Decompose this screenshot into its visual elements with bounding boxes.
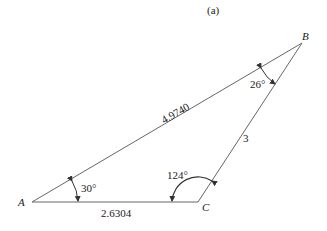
angle-arc-a bbox=[72, 181, 78, 201]
side-label-bc: 3 bbox=[243, 132, 249, 144]
angle-label-a: 30° bbox=[81, 182, 96, 194]
figure-caption: (a) bbox=[207, 4, 219, 16]
side-label-ac: 2.6304 bbox=[101, 207, 131, 219]
vertex-label-b: B bbox=[302, 30, 309, 42]
vertex-label-a: A bbox=[18, 196, 25, 208]
vertex-label-c: C bbox=[202, 201, 209, 213]
angle-label-c: 124° bbox=[167, 169, 188, 181]
angle-label-b: 26° bbox=[250, 78, 265, 90]
